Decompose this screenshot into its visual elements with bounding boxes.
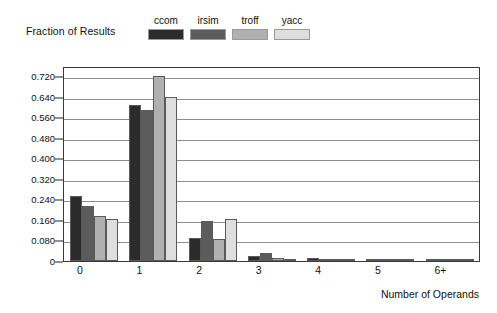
bar-yacc-3[interactable]: [284, 259, 296, 261]
x-tick-label-2: 2: [182, 264, 242, 280]
bar-ccom-0[interactable]: [70, 196, 82, 261]
y-tick-mark: [55, 118, 63, 119]
bar-groups: [64, 68, 479, 261]
bar-troff-1[interactable]: [153, 76, 165, 261]
chart-header: Fraction of Results ccomirsimtroffyacc: [0, 0, 497, 52]
bar-troff-0[interactable]: [94, 216, 106, 261]
y-tick-mark: [55, 159, 63, 160]
y-tick-label: 0.720: [31, 73, 55, 83]
x-axis-tick-labels: 0123456+: [63, 264, 480, 280]
legend-swatch: [148, 29, 184, 40]
bar-yacc-2[interactable]: [225, 219, 237, 261]
y-tick-mark: [55, 241, 63, 242]
bar-group-6plus: [420, 68, 479, 261]
chart-legend: ccomirsimtroffyacc: [148, 15, 310, 40]
bar-irsim-2[interactable]: [201, 221, 213, 261]
bar-yacc-0[interactable]: [106, 219, 118, 261]
y-tick-label: 0.080: [31, 237, 55, 247]
bar-yacc-1[interactable]: [165, 97, 177, 261]
bar-irsim-3[interactable]: [260, 253, 272, 261]
y-tick-label: 0.480: [31, 134, 55, 144]
bar-irsim-5[interactable]: [378, 259, 390, 261]
y-axis-title: Fraction of Results: [26, 25, 115, 37]
y-tick-mark: [55, 262, 63, 263]
bar-ccom-5[interactable]: [366, 259, 378, 261]
bar-troff-2[interactable]: [213, 239, 225, 261]
legend-item-ccom[interactable]: ccom: [148, 15, 184, 40]
legend-label: ccom: [154, 15, 178, 27]
bar-yacc-6plus[interactable]: [462, 259, 474, 261]
bar-yacc-5[interactable]: [402, 259, 414, 261]
bar-group-5: [360, 68, 419, 261]
y-tick-mark: [55, 77, 63, 78]
y-tick-label: 0.160: [31, 216, 55, 226]
y-tick-label: 0.240: [31, 196, 55, 206]
legend-item-troff[interactable]: troff: [232, 15, 268, 40]
bar-group-1: [123, 68, 182, 261]
bar-irsim-4[interactable]: [319, 259, 331, 261]
bar-yacc-4[interactable]: [343, 259, 355, 261]
legend-item-yacc[interactable]: yacc: [274, 15, 310, 40]
y-tick-mark: [55, 138, 63, 139]
bar-ccom-2[interactable]: [189, 238, 201, 261]
legend-swatch: [232, 29, 268, 40]
y-tick-label: 0.320: [31, 175, 55, 185]
bar-ccom-1[interactable]: [129, 105, 141, 262]
y-tick-mark: [55, 179, 63, 180]
bar-ccom-4[interactable]: [307, 258, 319, 261]
bar-troff-3[interactable]: [272, 258, 284, 261]
bar-troff-4[interactable]: [331, 259, 343, 261]
plot-area: [63, 67, 480, 262]
x-axis-title: Number of Operands: [381, 288, 479, 300]
x-tick-label-6plus: 6+: [420, 264, 480, 280]
y-tick-label: 0.400: [31, 155, 55, 165]
legend-swatch: [190, 29, 226, 40]
bar-troff-5[interactable]: [390, 259, 402, 261]
legend-label: irsim: [197, 15, 218, 27]
legend-label: yacc: [282, 15, 303, 27]
bar-irsim-0[interactable]: [82, 206, 94, 261]
x-tick-label-4: 4: [301, 264, 361, 280]
y-tick-label: 0.640: [31, 93, 55, 103]
bar-group-0: [64, 68, 123, 261]
x-tick-label-1: 1: [123, 264, 183, 280]
bar-troff-6plus[interactable]: [450, 259, 462, 261]
bar-ccom-6plus[interactable]: [426, 259, 438, 261]
bar-group-2: [183, 68, 242, 261]
x-tick-label-0: 0: [63, 264, 123, 280]
y-tick-mark: [55, 220, 63, 221]
plot-wrapper: 00.0800.1600.2400.3200.4000.4800.5600.64…: [0, 52, 497, 313]
legend-swatch: [274, 29, 310, 40]
legend-item-irsim[interactable]: irsim: [190, 15, 226, 40]
bar-irsim-1[interactable]: [141, 110, 153, 261]
x-tick-label-5: 5: [361, 264, 421, 280]
bar-group-3: [242, 68, 301, 261]
legend-label: troff: [241, 15, 258, 27]
x-tick-label-3: 3: [242, 264, 302, 280]
y-tick-mark: [55, 97, 63, 98]
y-tick-mark: [55, 200, 63, 201]
y-axis-ticks: 00.0800.1600.2400.3200.4000.4800.5600.64…: [0, 52, 63, 248]
bar-group-4: [301, 68, 360, 261]
bar-ccom-3[interactable]: [248, 256, 260, 261]
y-tick-label: 0.560: [31, 114, 55, 124]
bar-irsim-6plus[interactable]: [438, 259, 450, 261]
